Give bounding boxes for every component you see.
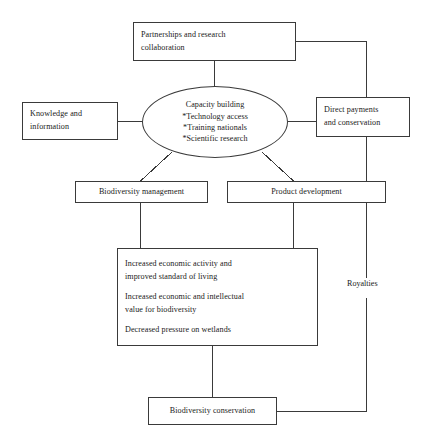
direct-payments-line-1: Direct payments — [324, 104, 378, 117]
knowledge-line-1: Knowledge and — [30, 108, 82, 121]
node-biodiversity-conservation: Biodiversity conservation — [148, 397, 277, 425]
node-product-development: Product development — [227, 181, 386, 203]
capacity-line-4: *Scientific research — [182, 133, 247, 144]
node-knowledge-and-information: Knowledge and information — [22, 102, 118, 140]
outcomes-paragraph-3: Decreased pressure on wetlands — [125, 324, 231, 337]
capacity-line-2: *Technology access — [182, 111, 248, 122]
node-biodiversity-management: Biodiversity management — [75, 181, 208, 203]
direct-payments-line-2: and conservation — [324, 117, 380, 130]
node-direct-payments-and-conservation: Direct payments and conservation — [316, 97, 410, 137]
connector-capacity-to-biodiversity-management — [141, 152, 173, 181]
outcomes-paragraph-2: Increased economic and intellectual valu… — [125, 291, 244, 316]
capacity-line-1: Capacity building — [186, 99, 245, 110]
connector-lines-layer — [0, 0, 432, 447]
partnerships-line-2: collaboration — [141, 42, 185, 55]
node-capacity-building: Capacity building *Technology access *Tr… — [142, 86, 288, 158]
outcomes-p2-line-1: Increased economic and intellectual — [125, 291, 244, 304]
outcomes-p2-line-2: value for biodiversity — [125, 304, 244, 317]
capacity-line-3: *Training nationals — [183, 122, 247, 133]
node-outcomes: Increased economic activity and improved… — [117, 248, 318, 346]
label-royalties: Royalties — [345, 279, 380, 290]
knowledge-line-2: information — [30, 121, 69, 134]
royalties-text: Royalties — [347, 279, 378, 288]
flow-diagram: Partnerships and research collaboration … — [0, 0, 432, 447]
partnerships-line-1: Partnerships and research — [141, 29, 226, 42]
outcomes-p3-line-1: Decreased pressure on wetlands — [125, 324, 231, 337]
outcomes-paragraph-1: Increased economic activity and improved… — [125, 258, 232, 283]
outcomes-p1-line-1: Increased economic activity and — [125, 258, 232, 271]
node-partnerships-and-research-collaboration: Partnerships and research collaboration — [133, 22, 296, 61]
biodiversity-conservation-label: Biodiversity conservation — [170, 405, 255, 418]
connector-partnerships-to-direct-payments — [296, 41, 367, 97]
product-development-label: Product development — [271, 186, 342, 199]
outcomes-p1-line-2: improved standard of living — [125, 271, 232, 284]
connector-capacity-to-product-development — [262, 152, 294, 181]
biodiversity-management-label: Biodiversity management — [99, 186, 184, 199]
